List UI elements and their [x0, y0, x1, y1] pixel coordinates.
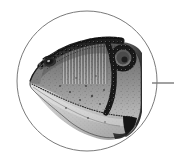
dinosaur-head-callout-figure: [0, 0, 174, 160]
figure-root: Grayscale engraved illustration of a the…: [0, 0, 174, 160]
